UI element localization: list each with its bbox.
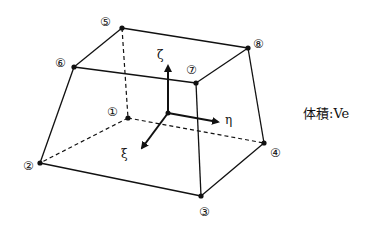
node-label-8: ⑧ [253,38,264,50]
node-label-5: ⑤ [100,16,111,28]
volume-label: 体積:Ve [303,103,349,122]
node-label-3: ③ [199,206,210,218]
node-label-7: ⑦ [186,64,197,76]
node-label-1: ① [107,106,118,118]
zeta-axis-label: ζ [157,49,164,61]
eta-axis-label: η [225,114,232,126]
local-axes [142,66,218,148]
node-label-2: ② [23,160,34,172]
node-points [37,25,266,198]
xi-axis-label: ξ [121,148,128,160]
visible-edges [40,28,264,196]
node-label-4: ④ [270,147,281,159]
node-label-6: ⑥ [55,57,66,69]
hidden-edges [40,28,264,163]
